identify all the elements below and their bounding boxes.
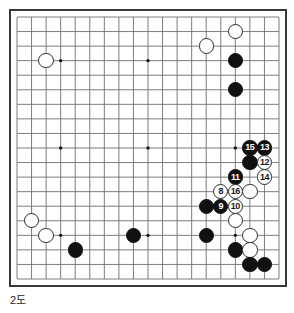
go-stone-white — [228, 24, 243, 39]
stone-move-number: 14 — [260, 172, 269, 181]
go-stone-white — [199, 38, 214, 53]
stone-move-number: 8 — [219, 187, 224, 196]
go-stone-white — [228, 213, 243, 228]
go-stone-black — [228, 53, 243, 68]
go-stone-white — [24, 213, 39, 228]
go-stone-black — [242, 155, 257, 170]
go-stone-white-14: 14 — [257, 169, 272, 184]
stone-layer: 1513121114816910 — [11, 11, 285, 285]
go-stone-black — [242, 257, 257, 272]
go-stone-black-11: 11 — [228, 169, 243, 184]
go-stone-white — [242, 242, 257, 257]
go-stone-black — [257, 257, 272, 272]
stone-move-number: 15 — [245, 143, 254, 152]
go-stone-black — [199, 228, 214, 243]
go-stone-black-9: 9 — [213, 199, 228, 214]
stone-move-number: 11 — [231, 172, 240, 181]
go-stone-white-12: 12 — [257, 155, 272, 170]
stone-move-number: 10 — [231, 201, 240, 210]
stone-move-number: 13 — [260, 143, 269, 152]
go-stone-black — [68, 242, 83, 257]
go-stone-white-8: 8 — [213, 184, 228, 199]
go-stone-black — [199, 199, 214, 214]
go-stone-white — [242, 184, 257, 199]
go-stone-white-10: 10 — [228, 199, 243, 214]
go-stone-white — [242, 228, 257, 243]
go-stone-black — [228, 242, 243, 257]
stone-move-number: 9 — [219, 201, 224, 210]
stone-move-number: 16 — [231, 187, 240, 196]
go-stone-black-15: 15 — [242, 140, 257, 155]
go-board: 1513121114816910 — [9, 9, 287, 287]
stone-move-number: 12 — [260, 158, 269, 167]
go-stone-black — [228, 82, 243, 97]
go-stone-white — [38, 53, 53, 68]
diagram-caption: 2도 — [10, 291, 26, 307]
go-stone-white-16: 16 — [228, 184, 243, 199]
go-stone-white — [38, 228, 53, 243]
go-stone-black — [126, 228, 141, 243]
go-stone-black-13: 13 — [257, 140, 272, 155]
go-diagram: 1513121114816910 2도 — [0, 0, 294, 313]
